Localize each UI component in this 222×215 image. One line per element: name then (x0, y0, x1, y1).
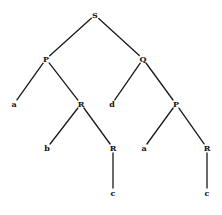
node-b-leaf: b (44, 143, 50, 153)
tree-diagram: S P Q a R d P b R a R c c (0, 0, 222, 215)
tree-edge (146, 63, 173, 100)
node-r-inner-left: R (110, 143, 117, 153)
tree-edge (179, 108, 204, 144)
node-a-leaf-left: a (11, 99, 16, 109)
node-q: Q (140, 54, 147, 64)
tree-edge (84, 108, 110, 144)
node-d-leaf: d (109, 99, 115, 109)
tree-edge (50, 18, 92, 55)
tree-edge (17, 63, 43, 100)
tree-edge (49, 63, 78, 100)
tree-edge (99, 18, 140, 55)
node-r-left: R (78, 99, 85, 109)
node-root-s: S (92, 10, 98, 20)
tree-edge (50, 108, 78, 144)
node-p-right: P (173, 99, 179, 109)
tree-nodes: S P Q a R d P b R a R c c (11, 10, 210, 198)
node-p-left: P (43, 54, 49, 64)
tree-edge (115, 63, 140, 100)
node-c-leaf-left: c (111, 188, 116, 198)
node-c-leaf-right: c (205, 188, 210, 198)
node-a-leaf-right: a (141, 143, 146, 153)
node-r-right: R (204, 143, 211, 153)
tree-edge (147, 108, 173, 144)
